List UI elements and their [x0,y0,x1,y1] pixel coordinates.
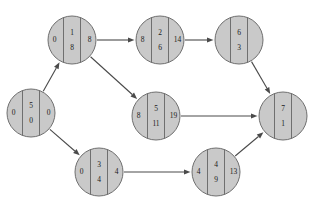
node-cell-left: 0 [53,35,57,44]
node-top-left[interactable]: 0188 [48,16,96,64]
node-cell-left: 0 [12,108,16,117]
node-top-right[interactable]: 63 [215,16,263,64]
arrow-head [128,37,135,42]
edge-top-right-to-end [252,62,271,94]
node-cell-center-top: 3 [97,160,101,169]
edge-top-middle-to-top-right [185,37,214,42]
node-cell-center-bottom: 0 [29,116,33,125]
edge-bottom-right-to-end [235,132,263,156]
node-top-middle[interactable]: 82614 [136,16,184,64]
network-canvas: 05000188826146385111903444491371 [0,0,315,204]
node-cell-center-bottom: 6 [158,43,162,52]
nodes-layer: 05000188826146385111903444491371 [7,16,307,196]
node-cell-left: 0 [80,167,84,176]
activity-network-diagram: 05000188826146385111903444491371 [0,0,315,204]
edge-top-left-to-top-middle [97,37,135,42]
node-cell-left: 8 [141,35,145,44]
node-cell-right: 13 [230,167,238,176]
edge-top-left-to-center [91,57,138,99]
end-node[interactable]: 71 [259,92,307,140]
node-circle [259,92,307,140]
node-cell-center-top: 5 [29,101,33,110]
start-node[interactable]: 0500 [7,89,55,137]
node-circle [215,16,263,64]
node-cell-center-top: 4 [214,160,218,169]
edge-center-to-end [181,113,258,118]
node-bottom-right[interactable]: 44913 [192,148,240,196]
edge-start-to-top-left [43,62,59,91]
node-bottom-left[interactable]: 0344 [75,148,123,196]
node-cell-right: 14 [174,35,182,44]
node-cell-right: 4 [115,167,119,176]
node-cell-right: 0 [47,108,51,117]
edge-start-to-bottom-left [50,129,80,155]
arrow-head [265,87,271,94]
arrow-head [54,62,59,69]
node-cell-center-bottom: 1 [281,119,285,128]
node-cell-center-top: 7 [281,104,285,113]
node-cell-center-top: 1 [70,28,74,37]
arrow-head [207,37,214,42]
node-cell-center-bottom: 11 [152,119,159,128]
node-cell-center-bottom: 4 [97,175,101,184]
node-cell-center-top: 5 [154,104,158,113]
node-cell-center-top: 6 [237,28,241,37]
node-cell-left: 4 [197,167,201,176]
edge-bottom-left-to-bottom-right [124,169,191,174]
node-cell-right: 19 [170,111,178,120]
node-cell-center-top: 2 [158,28,162,37]
node-cell-center-bottom: 9 [214,175,218,184]
node-cell-center-bottom: 3 [237,43,241,52]
node-cell-center-bottom: 8 [70,43,74,52]
node-cell-right: 8 [88,35,92,44]
node-center[interactable]: 851119 [132,92,180,140]
arrow-head [184,169,191,174]
node-cell-left: 8 [137,111,141,120]
arrow-head [251,113,258,118]
